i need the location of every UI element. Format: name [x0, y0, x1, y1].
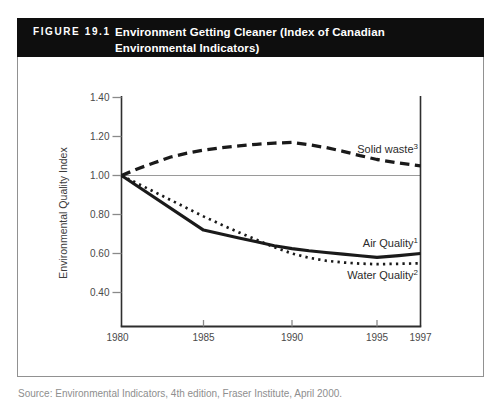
x-tick-label: 1980 [106, 332, 129, 343]
x-tick-label: 1995 [366, 332, 389, 343]
y-tick-label: 0.60 [90, 248, 110, 259]
figure-title-line2: Environmental Indicators) [115, 40, 385, 56]
y-tick-label: 1.00 [90, 170, 110, 181]
y-tick-label: 0.80 [90, 209, 110, 220]
x-tick-label: 1990 [281, 332, 304, 343]
x-tick-label: 1997 [409, 332, 432, 343]
series-label-solid-waste: Solid waste3 [357, 142, 418, 155]
figure-header: FIGURE 19.1 Environment Getting Cleaner … [17, 18, 484, 57]
figure-title: Environment Getting Cleaner (Index of Ca… [115, 24, 385, 56]
y-tick-label: 1.20 [90, 131, 110, 142]
x-tick-label: 1985 [192, 332, 215, 343]
figure-number-label: FIGURE 19.1 [33, 26, 111, 37]
series-label-air-quality: Air Quality1 [363, 236, 419, 249]
series-label-water-quality: Water Quality2 [347, 268, 418, 281]
y-tick-label: 1.40 [90, 92, 110, 103]
figure-title-line1: Environment Getting Cleaner (Index of Ca… [115, 24, 385, 40]
y-tick-label: 0.40 [90, 287, 110, 298]
series-line-water-quality [122, 176, 421, 265]
